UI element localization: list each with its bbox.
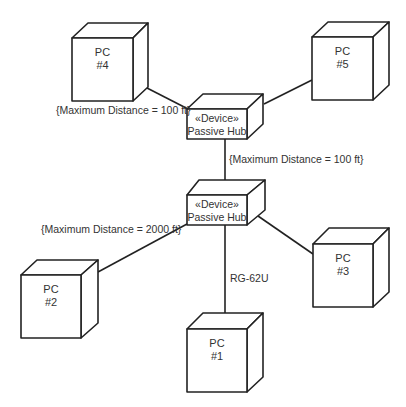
node-pc1-label: PC #1 — [187, 337, 247, 363]
node-hub-upper-label: «Device» Passive Hub — [185, 112, 249, 138]
node-pc3-type: PC — [313, 252, 373, 265]
node-pc5-label: PC #5 — [312, 45, 373, 71]
node-pc4-label: PC #4 — [72, 46, 133, 72]
node-hub-lower-label: «Device» Passive Hub — [185, 198, 249, 224]
edge-label-pc2-hub: {Maximum Distance = 2000 ft} — [41, 223, 181, 235]
node-pc1-type: PC — [187, 337, 247, 350]
node-pc4-number: #4 — [72, 59, 133, 72]
node-pc1-number: #1 — [187, 350, 247, 363]
node-pc2-label: PC #2 — [21, 283, 81, 309]
node-hub-lower-name: Passive Hub — [185, 211, 249, 224]
node-hub-upper-name: Passive Hub — [185, 125, 249, 138]
node-pc2-number: #2 — [21, 296, 81, 309]
node-hub-upper-stereotype: «Device» — [185, 112, 249, 125]
edge-hub-lower-pc3 — [258, 216, 313, 254]
node-pc2-type: PC — [21, 283, 81, 296]
node-pc5-number: #5 — [312, 58, 373, 71]
edge-label-hub-hub: {Maximum Distance = 100 ft} — [229, 153, 364, 165]
edge-label-pc4-hub: {Maximum Distance = 100 ft} — [56, 104, 191, 116]
node-pc5-type: PC — [312, 45, 373, 58]
node-pc4-type: PC — [72, 46, 133, 59]
node-pc3-label: PC #3 — [313, 252, 373, 278]
edge-pc5-hub-upper — [264, 80, 312, 104]
node-pc3-number: #3 — [313, 265, 373, 278]
edge-label-hub-pc1: RG-62U — [230, 272, 269, 284]
node-hub-lower-stereotype: «Device» — [185, 198, 249, 211]
